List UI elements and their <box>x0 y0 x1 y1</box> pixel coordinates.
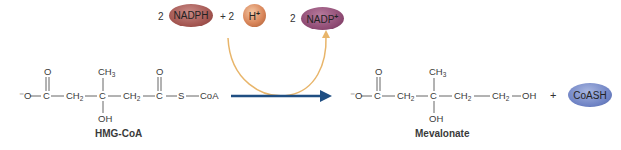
plus-2-coefficient: + 2 <box>220 11 234 22</box>
mev-ch2-a: CH2 <box>397 91 414 103</box>
hmg-coa-group: CoA <box>200 91 218 101</box>
hmg-carboxyl-o: O <box>44 67 51 77</box>
hmg-thioester-o: O <box>156 67 163 77</box>
hmg-coa-name: HMG-CoA <box>95 128 142 139</box>
hmg-sulfur: S <box>178 91 184 101</box>
coash-oval: CoASH <box>568 83 612 107</box>
hmg-carboxyl-c: C <box>43 91 50 101</box>
hmg-center-c: C <box>99 91 106 101</box>
hmg-oh: OH <box>98 114 112 124</box>
nadph-label: NADPH <box>173 10 208 21</box>
mev-ch2-c: CH2 <box>492 91 509 103</box>
hplus-label: H+ <box>249 10 260 22</box>
mevalonate-name: Mevalonate <box>415 128 469 139</box>
mev-carboxyl-o: O <box>375 67 382 77</box>
mev-ch3: CH3 <box>429 67 446 79</box>
mev-o-minus: ⁻O <box>350 91 362 101</box>
hmg-ch2-a: CH2 <box>66 91 83 103</box>
hmg-o-minus: ⁻O <box>19 91 31 101</box>
nadp-coefficient: 2 <box>290 13 296 24</box>
coash-label: CoASH <box>573 90 606 101</box>
mev-ch2-b: CH2 <box>454 91 471 103</box>
hmg-ch3: CH3 <box>98 67 115 79</box>
hplus-circle: H+ <box>243 4 266 27</box>
hmg-thioester-c: C <box>156 91 163 101</box>
nadp-oval: NADP+ <box>301 7 344 30</box>
mev-center-c: C <box>430 91 437 101</box>
reaction-arrowhead-icon <box>320 90 332 102</box>
mev-carboxyl-c: C <box>374 91 381 101</box>
nadp-label: NADP+ <box>307 13 339 25</box>
nadph-oval: NADPH <box>169 4 213 27</box>
nadph-coefficient: 2 <box>158 11 164 22</box>
mev-oh-end: OH <box>522 91 536 101</box>
arc-arrowhead-icon <box>322 30 330 38</box>
cofactor-arc <box>228 36 326 96</box>
hmg-ch2-b: CH2 <box>123 91 140 103</box>
mev-oh: OH <box>429 114 443 124</box>
product-plus: + <box>550 89 556 101</box>
